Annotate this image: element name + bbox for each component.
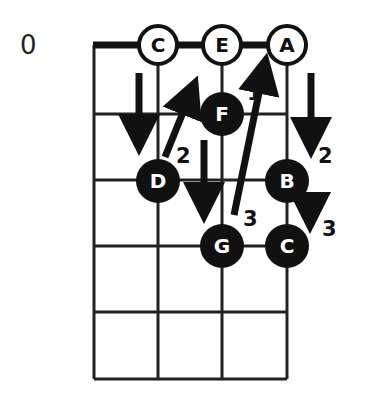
finger-number: 2 bbox=[176, 144, 191, 168]
open-note-e: E bbox=[203, 26, 241, 64]
note-b: B bbox=[265, 159, 309, 203]
note-g: G bbox=[200, 224, 244, 268]
svg-text:F: F bbox=[215, 102, 229, 126]
svg-text:B: B bbox=[279, 169, 294, 193]
svg-text:C: C bbox=[280, 234, 295, 258]
open-note-a: A bbox=[268, 26, 306, 64]
svg-text:E: E bbox=[215, 33, 229, 57]
note-d: D bbox=[136, 159, 180, 203]
svg-text:A: A bbox=[279, 33, 295, 57]
open-note-c: C bbox=[139, 26, 177, 64]
finger-number: 1 bbox=[247, 81, 262, 105]
fretboard-diagram: C E A D F G B C 1 2 2 3 3 bbox=[0, 0, 372, 399]
note-c-high: C bbox=[265, 224, 309, 268]
finger-number: 2 bbox=[318, 144, 333, 168]
svg-text:C: C bbox=[151, 33, 166, 57]
svg-text:G: G bbox=[214, 234, 230, 258]
finger-number: 3 bbox=[243, 207, 258, 231]
note-f: F bbox=[200, 92, 244, 136]
finger-number: 3 bbox=[322, 217, 337, 241]
svg-text:D: D bbox=[150, 169, 167, 193]
